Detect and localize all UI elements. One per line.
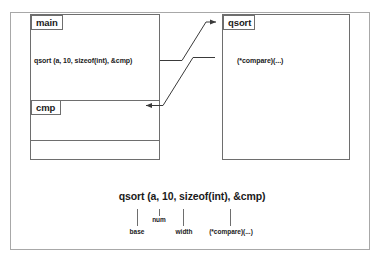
stack-divider-bottom xyxy=(30,140,160,141)
box-qsort-compare-text: (*compare)(...) xyxy=(237,57,283,64)
label-num: num xyxy=(143,216,175,223)
label-base: base xyxy=(122,228,152,235)
box-cmp-label: cmp xyxy=(31,100,61,115)
label-width: width xyxy=(168,228,200,235)
box-qsort xyxy=(222,14,350,160)
tick-base xyxy=(137,209,138,226)
box-main-label: main xyxy=(31,15,63,30)
tick-width xyxy=(183,209,184,226)
box-main xyxy=(30,14,160,160)
label-compare: (*compare)(...) xyxy=(198,228,264,235)
box-main-call-text: qsort (a, 10, sizeof(int), &cmp) xyxy=(34,57,132,64)
legend-signature: qsort (a, 10, sizeof(int), &cmp) xyxy=(0,190,384,202)
tick-compare xyxy=(230,209,231,226)
diagram-canvas: main qsort (a, 10, sizeof(int), &cmp) cm… xyxy=(0,0,384,264)
box-qsort-label: qsort xyxy=(223,15,255,30)
tick-num xyxy=(159,209,160,216)
